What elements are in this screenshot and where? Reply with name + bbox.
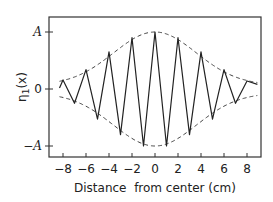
x-axis-label: Distance from center (cm) — [74, 181, 236, 195]
y-tick-label: 0 — [34, 82, 42, 96]
y-tick-label: −A — [23, 139, 42, 153]
x-tick-label: 6 — [220, 162, 228, 176]
x-tick-label: −6 — [77, 162, 95, 176]
chart: A0−A −8−6−4−202468 η1(x) Distance from c… — [0, 0, 273, 202]
plot-frame — [49, 17, 261, 157]
x-tick-label: 4 — [197, 162, 205, 176]
upper-envelope-line — [60, 32, 258, 83]
x-tick-label: 0 — [151, 162, 159, 176]
x-tick-label: −8 — [54, 162, 72, 176]
x-tick-label: 2 — [174, 162, 182, 176]
x-tick-label: −4 — [100, 162, 118, 176]
x-tick-label: −2 — [123, 162, 141, 176]
y-axis-label: η1(x) — [15, 72, 31, 102]
y-tick-label: A — [32, 25, 42, 39]
x-tick-label: 8 — [243, 162, 251, 176]
lower-envelope-line — [60, 96, 258, 147]
oscillation-line — [60, 32, 258, 146]
